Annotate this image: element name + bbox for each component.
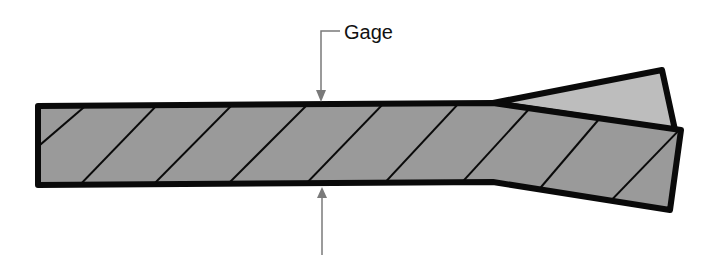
gage-label: Gage: [344, 21, 393, 43]
main-bar: [20, 102, 685, 212]
gage-top-arrow: [321, 31, 340, 92]
arrow-up-icon: [317, 187, 327, 198]
gage-diagram: Gage: [0, 0, 704, 268]
arrow-down-icon: [316, 90, 326, 102]
